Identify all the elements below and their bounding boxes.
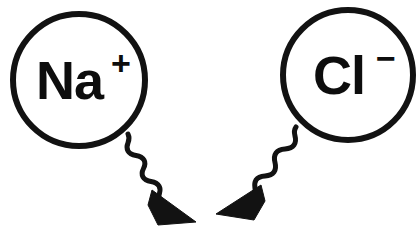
sodium-ion-charge: + (111, 44, 131, 82)
ionic-attraction-diagram: Na + Cl − (0, 0, 418, 238)
ion-group-sodium: Na + (13, 14, 145, 146)
chloride-ion-symbol: Cl (313, 45, 365, 105)
diagram-canvas: Na + Cl − (0, 0, 418, 238)
chloride-ion-charge: − (376, 39, 396, 77)
ion-group-chloride: Cl − (283, 10, 413, 140)
sodium-ion-symbol: Na (36, 50, 105, 110)
